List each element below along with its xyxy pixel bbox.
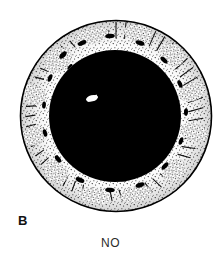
- figure-panel: B NO: [0, 0, 221, 261]
- eye-illustration: [0, 0, 221, 261]
- figure-caption: NO: [0, 236, 221, 250]
- panel-label: B: [18, 213, 27, 228]
- pupil: [49, 50, 181, 182]
